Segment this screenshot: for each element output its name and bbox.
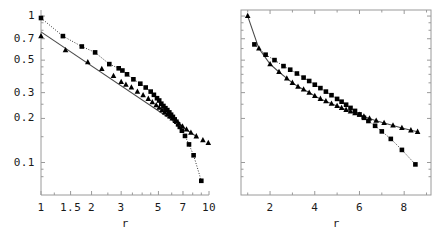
y-tick-label: 1 (0, 9, 35, 22)
x-tick-label: 6 (339, 201, 379, 214)
data-point-square (339, 99, 344, 104)
x-axis-title: r (306, 217, 366, 230)
data-point-square (389, 137, 394, 142)
x-tick-label: 4 (295, 201, 335, 214)
data-point-square (413, 162, 418, 167)
data-point-square (362, 116, 367, 121)
plot-frame (241, 10, 431, 195)
y-tick-label: 0.1 (0, 156, 35, 169)
data-point-square (353, 109, 358, 114)
data-point-square (318, 86, 323, 91)
data-point-square (288, 67, 293, 72)
data-point-triangle (245, 13, 251, 18)
x-tick-label: 2 (250, 201, 290, 214)
y-tick-label: 0.5 (0, 53, 35, 66)
data-point-square (357, 112, 362, 117)
data-point-square (263, 52, 268, 57)
right-plot-canvas (0, 0, 442, 235)
data-point-square (281, 64, 286, 69)
data-point-square (307, 79, 312, 84)
x-tick-label: 10 (189, 201, 229, 214)
data-point-square (313, 82, 318, 87)
y-tick-label: 0.7 (0, 32, 35, 45)
series-fit-line (248, 16, 418, 132)
data-point-square (272, 58, 277, 63)
data-point-square (252, 42, 257, 47)
series-connector-line (254, 44, 415, 164)
y-tick-label: 0.2 (0, 111, 35, 124)
data-point-square (295, 71, 300, 76)
data-point-triangle (284, 75, 290, 80)
data-point-square (400, 148, 405, 153)
data-point-triangle (290, 80, 296, 85)
x-axis-title: r (95, 217, 155, 230)
y-tick-label: 0.3 (0, 86, 35, 99)
data-point-square (348, 106, 353, 111)
x-tick-label: 8 (384, 201, 424, 214)
data-point-square (366, 119, 371, 124)
data-point-square (344, 102, 349, 107)
data-point-square (301, 75, 306, 80)
right-panel (0, 0, 442, 235)
data-point-square (324, 89, 329, 94)
data-point-square (329, 93, 334, 98)
data-point-triangle (295, 83, 301, 88)
data-point-square (380, 129, 385, 134)
data-point-square (373, 124, 378, 129)
x-tick-label: 3 (101, 201, 141, 214)
two-panel-figure: 0.10.20.30.50.7111.5235710r 2468r (0, 0, 442, 235)
data-point-square (335, 97, 340, 102)
